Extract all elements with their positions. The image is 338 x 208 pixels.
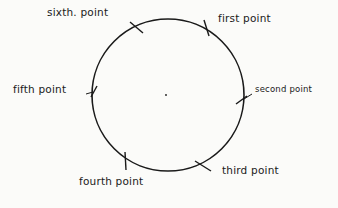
label-third-point: third point [222,164,279,176]
label-second-point: second point [255,84,312,94]
label-sixth-point: sixth. point [47,6,108,18]
label-fifth-point: fifth point [13,83,66,95]
center-dot [165,94,167,96]
tick-fourth-point [125,152,126,170]
circle-diagram [0,0,338,208]
main-circle [92,19,244,171]
tick-second-point [236,96,247,104]
label-fourth-point: fourth point [79,175,143,187]
label-first-point: first point [218,12,271,24]
